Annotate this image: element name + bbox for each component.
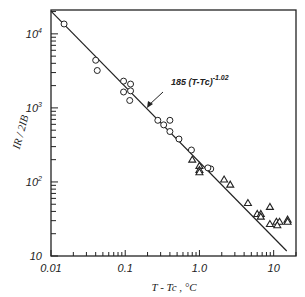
y-tick-label: 104 [26,27,42,40]
data-point-triangle [244,199,251,205]
x-tick-label: 0.01 [40,262,61,274]
data-point-circle [128,88,134,94]
data-point-circle [161,122,167,128]
data-point-circle [121,89,127,95]
x-axis-title: T - Tc , °C [151,281,197,293]
x-tick-label: 1.0 [192,262,208,274]
data-point-circle [94,68,100,74]
data-point-triangle [266,203,273,209]
y-tick-label: 10 [30,250,43,262]
data-point-triangle [266,221,273,227]
x-tick-label: 10 [268,262,281,274]
data-point-circle [167,117,173,123]
data-point-triangle [221,176,228,182]
data-point-circle [127,97,133,103]
y-tick-exponent: 4 [38,27,42,34]
y-tick-exponent: 2 [37,175,42,182]
data-point-circle [205,165,211,171]
data-point-circle [167,129,173,135]
data-point-circle [155,117,161,123]
data-point-circle [93,57,99,63]
y-tick-label: 102 [26,175,42,188]
y-tick-label: 103 [26,101,42,114]
data-point-circle [121,78,127,84]
data-point-circle [128,81,134,87]
y-axis-title: IR / 2IB [10,113,31,151]
data-point-circle [61,21,67,27]
fit-annotation: 185 (T-Tc)-1.02 [171,74,229,87]
data-point-circle [176,136,182,142]
chart: 0.010.11.01010102103104T - Tc , °CIR / 2… [0,0,305,297]
x-tick-label: 0.1 [118,262,133,274]
data-point-circle [188,147,194,153]
y-tick-exponent: 3 [38,101,42,108]
fit-annotation-exponent: -1.02 [213,74,229,81]
